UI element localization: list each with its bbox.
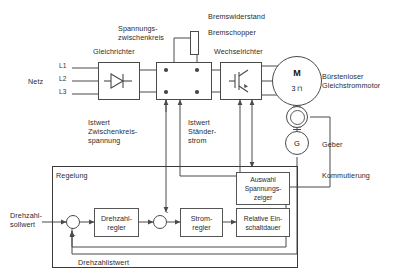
label-drehzahl-sollwert: Drehzahl- sollwert (10, 211, 42, 229)
summing-junction-current-sign: - (166, 208, 168, 215)
label-geber: Geber (322, 140, 342, 149)
label-istwert-zwischenkreisspannung: Istwert Zwischenkreis- spannung (88, 118, 137, 145)
node-dot-chopper-top (195, 68, 199, 72)
label-wechselrichter: Wechselrichter (214, 47, 263, 56)
label-bremschopper: Bremschopper (208, 28, 256, 37)
label-kommutierung: Kommutierung (322, 171, 370, 180)
block-relative-einschaltdauer: Relative Ein- schaltdauer (236, 208, 290, 237)
resolver-inner-icon (290, 110, 305, 125)
tacho-generator-symbol: G (285, 131, 309, 155)
phase-label-l3: L3 (59, 87, 67, 96)
brake-resistor-symbol-icon (190, 31, 199, 55)
label-motor-name: Bürstenloser Gleichstrommotor (322, 72, 380, 90)
block-stromregler: Strom- regler (180, 208, 223, 237)
phase-label-l1: L1 (59, 61, 67, 70)
motor-type-symbol: 3 ⊓ (273, 84, 321, 93)
label-istwert-staenderstrom: Istwert Ständer- strom (188, 118, 216, 145)
label-bremswiderstand: Bremswiderstand (208, 12, 265, 21)
node-dot-chopper-bottom (195, 90, 199, 94)
generator-letter: G (286, 139, 308, 148)
motor-symbol: M 3 ⊓ (272, 56, 322, 106)
motor-letter: M (273, 68, 321, 78)
phase-label-l2: L2 (59, 74, 67, 83)
igbt-symbol-icon (220, 62, 262, 100)
summing-junction-speed-sign: - (73, 231, 75, 238)
label-spannungszwischenkreis: Spannungs- zwischenkreis (118, 24, 164, 42)
label-gleichrichter: Gleichrichter (93, 47, 135, 56)
block-auswahl-spannungszeiger: Auswahl Spannungs- zeiger (236, 172, 290, 205)
summing-junction-current (153, 215, 167, 229)
block-drehzahlregler: Drehzahl- regler (94, 208, 139, 237)
label-netz: Netz (28, 77, 43, 86)
node-dot-capacitor-top (164, 68, 168, 72)
diode-symbol-icon (98, 62, 140, 100)
node-dot-capacitor-bottom (164, 90, 168, 94)
summing-junction-speed (66, 215, 80, 229)
power-electronics-block-diagram: Netz L1 L2 L3 Gleichrichter Spannungs- z… (0, 0, 394, 277)
